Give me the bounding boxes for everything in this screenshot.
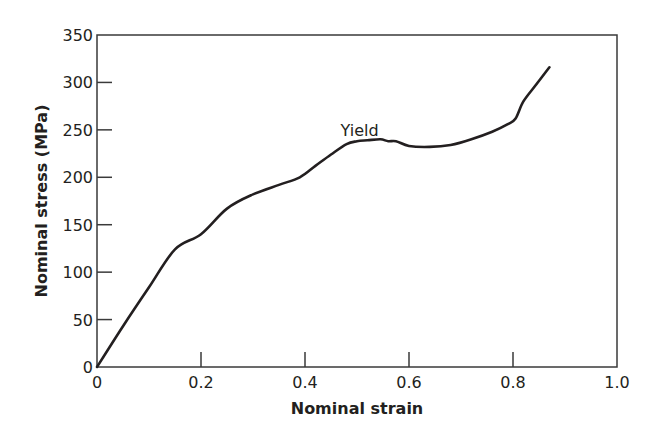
x-axis-ticks: 00.20.40.60.81.0 <box>92 352 630 392</box>
x-axis-title: Nominal strain <box>291 399 424 418</box>
x-tick-label: 0.2 <box>188 373 213 392</box>
x-tick-label: 1.0 <box>604 373 629 392</box>
y-tick-label: 350 <box>62 26 93 45</box>
plot-frame <box>97 35 617 367</box>
y-tick-label: 100 <box>62 263 93 282</box>
y-tick-label: 150 <box>62 216 93 235</box>
x-tick-label: 0.8 <box>500 373 525 392</box>
stress-strain-chart: 050100150200250300350 00.20.40.60.81.0 Y… <box>0 0 656 433</box>
x-tick-label: 0.6 <box>396 373 421 392</box>
x-tick-label: 0.4 <box>292 373 317 392</box>
y-tick-label: 50 <box>73 311 93 330</box>
yield-annotation: Yield <box>340 121 379 140</box>
data-line <box>97 67 549 367</box>
y-tick-label: 300 <box>62 73 93 92</box>
y-tick-label: 250 <box>62 121 93 140</box>
x-tick-label: 0 <box>92 373 102 392</box>
y-axis-ticks: 050100150200250300350 <box>62 26 112 377</box>
y-axis-title: Nominal stress (MPa) <box>32 105 51 298</box>
y-tick-label: 200 <box>62 168 93 187</box>
